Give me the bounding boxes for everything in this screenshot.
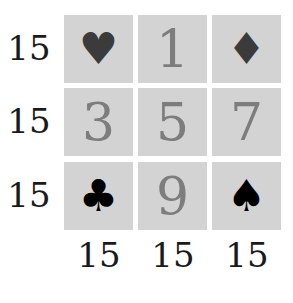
cell-r3c1-club[interactable]: ♣ [64, 162, 133, 230]
cell-r3c3-spade[interactable]: ♠ [212, 162, 281, 230]
row-sum-1: 15 [0, 31, 58, 65]
spade-icon: ♠ [227, 174, 266, 218]
cell-number: 9 [156, 170, 189, 222]
cell-number: 7 [230, 96, 263, 148]
cell-r2c2[interactable]: 5 [138, 88, 207, 156]
row-sum-3: 15 [0, 178, 58, 212]
club-icon: ♣ [79, 174, 118, 218]
cell-r1c1-heart[interactable]: ♥ [64, 15, 133, 83]
col-sum-1: 15 [64, 238, 134, 272]
cell-number: 3 [82, 96, 115, 148]
heart-icon: ♥ [79, 27, 118, 71]
cell-r1c2[interactable]: 1 [138, 15, 207, 83]
cell-number: 1 [156, 23, 189, 75]
row-sum-2: 15 [0, 104, 58, 138]
cell-r2c3[interactable]: 7 [212, 88, 281, 156]
cell-r2c1[interactable]: 3 [64, 88, 133, 156]
cell-number: 5 [156, 96, 189, 148]
cell-r3c2[interactable]: 9 [138, 162, 207, 230]
col-sum-3: 15 [212, 238, 282, 272]
cell-r1c3-diamond[interactable]: ♦ [212, 15, 281, 83]
col-sum-2: 15 [138, 238, 208, 272]
diamond-icon: ♦ [227, 27, 266, 71]
